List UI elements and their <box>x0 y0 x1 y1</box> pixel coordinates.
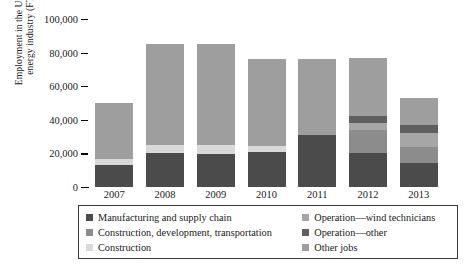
bar-segment <box>298 135 336 187</box>
legend-swatch-icon <box>86 244 93 251</box>
bar-segment <box>95 103 133 159</box>
legend-label: Other jobs <box>314 240 357 255</box>
bar-slot <box>241 19 292 187</box>
x-axis-tick-labels: 2007200820092010201120122013 <box>89 189 444 200</box>
bar-segment <box>298 59 336 135</box>
legend-item[interactable]: Manufacturing and supply chain <box>86 210 302 225</box>
chart-figure: Employment in the US wind energy industr… <box>0 0 468 273</box>
legend-item[interactable]: Construction, development, transportatio… <box>86 225 302 240</box>
stacked-bar[interactable] <box>146 44 184 187</box>
x-tick-label: 2012 <box>343 189 394 200</box>
stacked-bar[interactable] <box>349 58 387 187</box>
legend-swatch-icon <box>302 244 309 251</box>
bar-slot <box>190 19 241 187</box>
y-tick-mark <box>81 86 88 87</box>
bar-segment <box>349 123 387 130</box>
legend-item[interactable]: Operation—other <box>302 225 451 240</box>
bar-slot <box>393 19 444 187</box>
legend-label: Manufacturing and supply chain <box>98 210 232 225</box>
bar-segment <box>400 98 438 125</box>
legend-swatch-icon <box>86 214 93 221</box>
bar-slot <box>292 19 343 187</box>
bar-segment <box>146 145 184 153</box>
y-tick-mark <box>81 19 88 20</box>
y-tick-label: 80,000 <box>0 47 78 58</box>
bar-segment <box>400 133 438 146</box>
y-tick-label: 40,000 <box>0 114 78 125</box>
bar-slot <box>89 19 140 187</box>
bar-segment <box>95 165 133 187</box>
bar-segment <box>349 130 387 154</box>
y-tick-label: 0 <box>0 182 78 193</box>
bar-segment <box>248 152 286 187</box>
stacked-bar[interactable] <box>248 59 286 187</box>
x-tick-label: 2007 <box>89 189 140 200</box>
legend-label: Construction <box>98 240 151 255</box>
bar-segment <box>248 59 286 146</box>
legend-item[interactable]: Other jobs <box>302 240 451 255</box>
y-tick-label: 60,000 <box>0 81 78 92</box>
legend-label: Construction, development, transportatio… <box>98 225 272 240</box>
y-tick-mark <box>81 187 88 188</box>
bar-segment <box>197 154 235 187</box>
bar-segment <box>400 125 438 133</box>
stacked-bar[interactable] <box>197 44 235 187</box>
bar-segment <box>349 116 387 123</box>
y-tick-mark <box>81 53 88 54</box>
legend-item[interactable]: Construction <box>86 240 302 255</box>
stacked-bar[interactable] <box>400 98 438 187</box>
y-tick-label: 20,000 <box>0 148 78 159</box>
legend-label: Operation—other <box>314 225 387 240</box>
x-tick-label: 2011 <box>292 189 343 200</box>
bar-slot <box>343 19 394 187</box>
stacked-bar[interactable] <box>298 59 336 187</box>
bar-segment <box>400 163 438 187</box>
bar-slot <box>140 19 191 187</box>
bar-segment <box>349 58 387 117</box>
x-tick-label: 2013 <box>393 189 444 200</box>
y-tick-label: 100,000 <box>0 14 78 25</box>
bar-segment <box>349 153 387 187</box>
legend-swatch-icon <box>86 229 93 236</box>
bar-group <box>89 19 444 187</box>
bar-segment <box>197 145 235 154</box>
chart-legend: Manufacturing and supply chainConstructi… <box>78 205 458 259</box>
y-tick-mark <box>81 153 88 154</box>
legend-column-right: Operation—wind techniciansOperation—othe… <box>302 210 451 255</box>
y-tick-mark <box>81 120 88 121</box>
stacked-bar[interactable] <box>95 103 133 187</box>
bar-segment <box>146 44 184 145</box>
legend-item[interactable]: Operation—wind technicians <box>302 210 451 225</box>
x-tick-label: 2009 <box>190 189 241 200</box>
bar-segment <box>146 153 184 187</box>
legend-swatch-icon <box>302 214 309 221</box>
x-tick-label: 2010 <box>241 189 292 200</box>
bar-segment <box>400 147 438 163</box>
x-tick-label: 2008 <box>140 189 191 200</box>
legend-label: Operation—wind technicians <box>314 210 435 225</box>
legend-swatch-icon <box>302 229 309 236</box>
legend-column-left: Manufacturing and supply chainConstructi… <box>86 210 302 255</box>
bar-segment <box>197 44 235 145</box>
